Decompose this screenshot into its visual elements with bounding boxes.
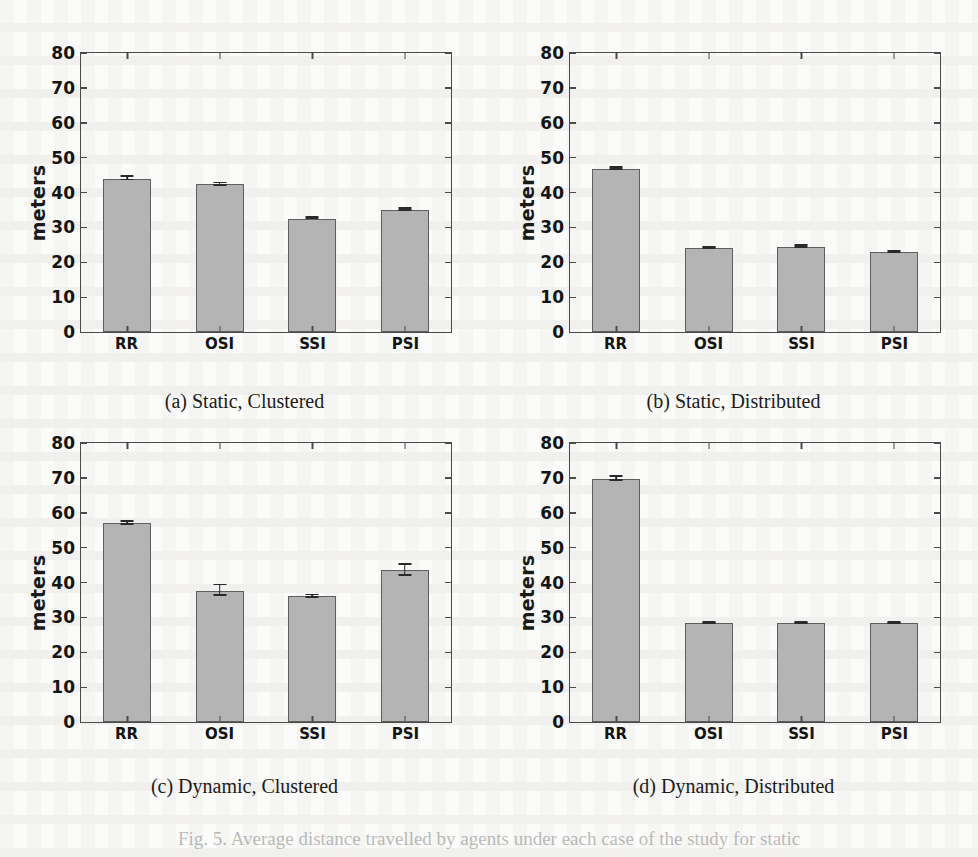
y-tick-label: 10 bbox=[51, 287, 75, 307]
x-tick-mark bbox=[404, 443, 405, 449]
y-tick-label: 30 bbox=[540, 217, 564, 237]
bar-ssi bbox=[777, 623, 825, 722]
x-tick-mark bbox=[708, 443, 709, 449]
y-tick-label: 20 bbox=[540, 642, 564, 662]
x-tick-label-osi: OSI bbox=[694, 725, 723, 743]
x-tick-label-osi: OSI bbox=[205, 335, 234, 353]
y-tick-label: 50 bbox=[540, 148, 564, 168]
y-tick-label: 80 bbox=[540, 433, 564, 453]
error-cap-lower bbox=[121, 179, 134, 181]
panel-a-static-clustered: meters 01020304050607080 RROSISSIPSI (a)… bbox=[0, 30, 489, 415]
y-tick-label: 60 bbox=[540, 503, 564, 523]
bars-layer bbox=[81, 443, 451, 722]
error-cap-lower bbox=[887, 251, 900, 253]
axes-frame-b: 01020304050607080 bbox=[569, 52, 941, 333]
error-cap-lower bbox=[795, 246, 808, 248]
x-tick-mark bbox=[404, 326, 405, 332]
error-cap-lower bbox=[213, 184, 226, 186]
y-tick-label: 50 bbox=[51, 538, 75, 558]
bar-psi bbox=[381, 210, 429, 332]
x-tick-labels-d: RROSISSIPSI bbox=[569, 725, 941, 747]
error-cap-lower bbox=[398, 574, 411, 576]
y-tick-label: 10 bbox=[540, 677, 564, 697]
x-tick-labels-a: RROSISSIPSI bbox=[80, 335, 452, 357]
x-tick-mark bbox=[616, 716, 617, 722]
y-tick-label: 70 bbox=[540, 78, 564, 98]
error-cap-lower bbox=[213, 594, 226, 596]
error-cap-lower bbox=[702, 247, 715, 249]
y-tick-label: 60 bbox=[540, 113, 564, 133]
x-tick-mark bbox=[127, 716, 128, 722]
x-tick-mark bbox=[404, 716, 405, 722]
x-tick-label-psi: PSI bbox=[392, 725, 419, 743]
subcaption-b: (b) Static, Distributed bbox=[489, 390, 978, 413]
y-tick-label: 0 bbox=[63, 322, 75, 342]
bars-layer bbox=[570, 443, 940, 722]
y-tick-label: 0 bbox=[552, 712, 564, 732]
subcaption-c: (c) Dynamic, Clustered bbox=[0, 775, 489, 798]
bar-rr bbox=[103, 523, 151, 722]
x-tick-label-ssi: SSI bbox=[299, 725, 326, 743]
y-tick-label: 0 bbox=[63, 712, 75, 732]
y-axis-label-c: meters bbox=[27, 554, 49, 631]
bar-rr bbox=[592, 479, 640, 722]
subcaption-d: (d) Dynamic, Distributed bbox=[489, 775, 978, 798]
error-cap-lower bbox=[398, 209, 411, 211]
figure-caption: Fig. 5. Average distance travelled by ag… bbox=[0, 828, 978, 857]
x-tick-mark bbox=[708, 326, 709, 332]
y-tick-label: 70 bbox=[51, 78, 75, 98]
panel-c-dynamic-clustered: meters 01020304050607080 RROSISSIPSI (c)… bbox=[0, 420, 489, 800]
x-tick-labels-c: RROSISSIPSI bbox=[80, 725, 452, 747]
bar-osi bbox=[196, 591, 244, 722]
y-tick-label: 30 bbox=[51, 217, 75, 237]
x-tick-mark bbox=[801, 53, 802, 59]
x-tick-mark bbox=[219, 443, 220, 449]
x-tick-label-osi: OSI bbox=[694, 335, 723, 353]
x-tick-label-psi: PSI bbox=[881, 725, 908, 743]
y-tick-label: 80 bbox=[51, 43, 75, 63]
y-tick-label: 40 bbox=[540, 573, 564, 593]
x-tick-mark bbox=[616, 326, 617, 332]
error-cap-upper bbox=[610, 475, 623, 477]
x-tick-mark bbox=[893, 53, 894, 59]
error-cap-upper bbox=[398, 563, 411, 565]
plot-area-c: meters 01020304050607080 RROSISSIPSI bbox=[40, 430, 460, 755]
x-tick-mark bbox=[616, 443, 617, 449]
y-tick-label: 60 bbox=[51, 503, 75, 523]
error-cap-lower bbox=[702, 622, 715, 624]
x-tick-mark bbox=[219, 716, 220, 722]
x-tick-mark bbox=[708, 53, 709, 59]
x-tick-label-rr: RR bbox=[115, 335, 138, 353]
x-tick-mark bbox=[312, 443, 313, 449]
error-cap-lower bbox=[121, 523, 134, 525]
y-tick-label: 60 bbox=[51, 113, 75, 133]
bar-ssi bbox=[288, 596, 336, 722]
bar-ssi bbox=[777, 247, 825, 332]
y-axis-label-b: meters bbox=[516, 164, 538, 241]
x-tick-label-rr: RR bbox=[604, 725, 627, 743]
figure-four-panel-bar-charts: meters 01020304050607080 RROSISSIPSI (a)… bbox=[0, 0, 978, 857]
y-tick-label: 20 bbox=[51, 642, 75, 662]
x-tick-mark bbox=[312, 716, 313, 722]
x-tick-label-ssi: SSI bbox=[299, 335, 326, 353]
axes-frame-d: 01020304050607080 bbox=[569, 442, 941, 723]
error-cap-lower bbox=[610, 479, 623, 481]
x-tick-mark bbox=[893, 326, 894, 332]
axes-frame-c: 01020304050607080 bbox=[80, 442, 452, 723]
x-tick-label-ssi: SSI bbox=[788, 725, 815, 743]
error-cap-upper bbox=[121, 520, 134, 522]
bar-rr bbox=[592, 169, 640, 332]
error-cap-lower bbox=[306, 596, 319, 598]
bar-psi bbox=[870, 252, 918, 332]
y-tick-label: 10 bbox=[51, 677, 75, 697]
x-tick-mark bbox=[312, 326, 313, 332]
bar-ssi bbox=[288, 219, 336, 332]
y-tick-label: 80 bbox=[540, 43, 564, 63]
error-cap-lower bbox=[887, 622, 900, 624]
y-tick-label: 80 bbox=[51, 433, 75, 453]
x-tick-mark bbox=[708, 716, 709, 722]
y-tick-label: 30 bbox=[51, 607, 75, 627]
x-tick-labels-b: RROSISSIPSI bbox=[569, 335, 941, 357]
x-tick-label-ssi: SSI bbox=[788, 335, 815, 353]
y-tick-label: 40 bbox=[51, 183, 75, 203]
